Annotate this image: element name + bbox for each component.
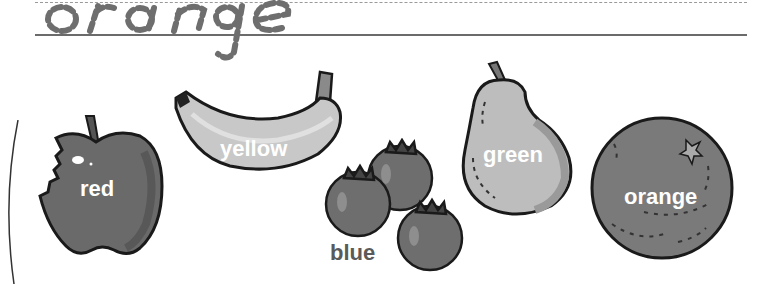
fruit-pear: green [455, 58, 580, 220]
fruit-blueberries: blue [320, 138, 470, 284]
fruit-apple: red [36, 112, 166, 262]
fruit-label-blue: blue [330, 240, 375, 266]
traced-word-orange [42, 0, 342, 70]
fruit-orange: orange [588, 116, 738, 262]
fruit-label-green: green [483, 142, 543, 168]
fruit-label-red: red [80, 176, 114, 202]
tracing-area: orange [0, 0, 764, 90]
fruit-label-yellow: yellow [220, 136, 287, 162]
fruit-label-orange: orange [624, 184, 697, 210]
pear-icon [455, 58, 580, 220]
page-border-curve [0, 120, 20, 284]
